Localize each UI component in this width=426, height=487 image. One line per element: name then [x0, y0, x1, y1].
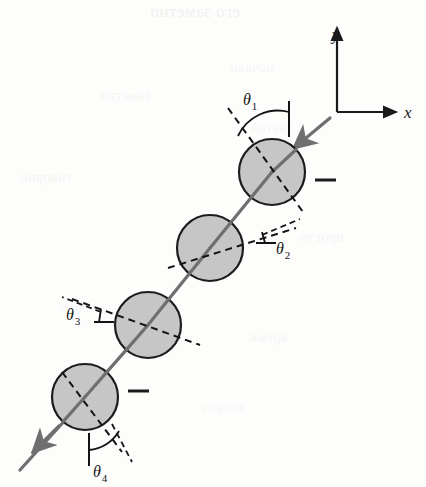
theta-2-label: θ2: [276, 240, 290, 261]
ray-optics-diagram: y x θ1θ2θ3θ4: [0, 0, 426, 487]
ray-segment-sphere1-sphere2: [231, 198, 251, 223]
outgoing-ray-arrowhead: [33, 426, 59, 452]
theta-3-subscript: 3: [75, 315, 81, 327]
y-axis-label: y: [330, 25, 340, 44]
theta-4-subscript: 4: [102, 472, 108, 484]
sphere-side-dash-marks: [128, 180, 336, 391]
theta-1-label: θ1: [243, 91, 257, 112]
x-axis-label: x: [403, 103, 412, 122]
theta-4-label: θ4: [93, 463, 108, 484]
ray-segment-sphere3-sphere4: [107, 350, 127, 372]
figure-container: его заметнозаметилговорилначалодругойпро…: [0, 0, 426, 487]
ray-segment-sphere2-sphere3: [169, 274, 190, 300]
angle-reference-dash: [262, 219, 300, 235]
incoming-ray-segment: [294, 118, 330, 148]
theta-3-label: θ3: [66, 306, 81, 327]
coordinate-axes: y x: [330, 25, 412, 122]
theta-1-subscript: 1: [252, 100, 258, 112]
theta-2-subscript: 2: [285, 249, 291, 261]
sphere-chain: [52, 139, 305, 430]
